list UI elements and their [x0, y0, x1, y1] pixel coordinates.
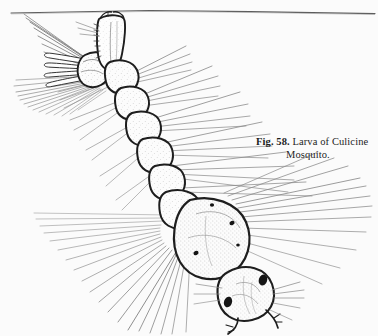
figure-plate: Fig. 58. Larva of Culicine Mosquito. — [0, 0, 378, 336]
larva-illustration — [0, 0, 378, 336]
head — [217, 267, 273, 321]
figure-caption-line2: Mosquito. — [256, 149, 376, 162]
figure-caption: Fig. 58. Larva of Culicine Mosquito. — [256, 136, 376, 161]
figure-number: Fig. 58. — [256, 136, 290, 147]
figure-caption-line1: Larva of Culicine — [293, 136, 369, 147]
